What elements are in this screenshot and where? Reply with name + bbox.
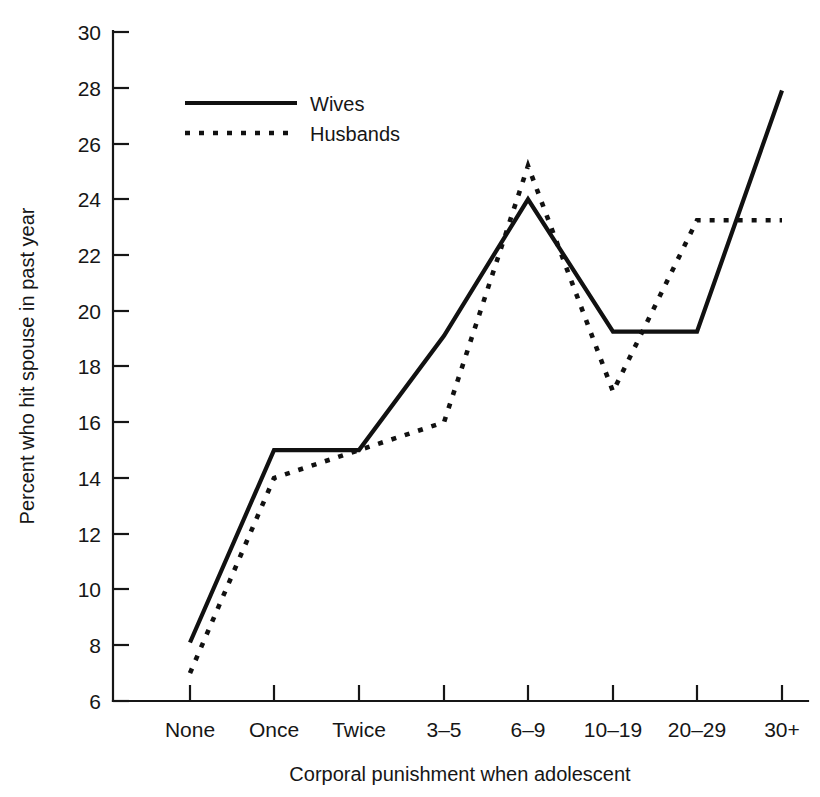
- y-tick-label-10: 10: [78, 578, 101, 601]
- series-line-husbands: [190, 166, 782, 673]
- y-tick-label-30: 30: [78, 21, 101, 44]
- legend-label-husbands: Husbands: [310, 123, 400, 145]
- x-axis-title: Corporal punishment when adolescent: [289, 763, 631, 785]
- y-tick-labels: 30 28 26 24 22 20 18 16 14 12 10 8 6: [78, 21, 102, 713]
- y-tick-label-6: 6: [89, 690, 101, 713]
- line-chart: 30 28 26 24 22 20 18 16 14 12 10 8 6: [0, 0, 820, 797]
- y-axis-title: Percent who hit spouse in past year: [16, 207, 38, 524]
- x-tick-label-6-9: 6–9: [510, 718, 545, 741]
- y-tick-label-16: 16: [78, 411, 101, 434]
- x-tick-label-30plus: 30+: [764, 718, 800, 741]
- x-tick-label-once: Once: [249, 718, 299, 741]
- y-tick-label-18: 18: [78, 355, 101, 378]
- chart-container: 30 28 26 24 22 20 18 16 14 12 10 8 6: [0, 0, 820, 797]
- y-tick-label-26: 26: [78, 133, 101, 156]
- y-tick-label-22: 22: [78, 244, 101, 267]
- y-tick-label-12: 12: [78, 523, 101, 546]
- x-tick-marks: [190, 685, 782, 701]
- series-line-wives: [190, 91, 782, 643]
- series-group: [190, 91, 782, 674]
- x-tick-label-none: None: [165, 718, 215, 741]
- y-tick-label-20: 20: [78, 300, 101, 323]
- x-tick-label-3-5: 3–5: [426, 718, 461, 741]
- x-tick-label-twice: Twice: [332, 718, 386, 741]
- y-tick-label-8: 8: [89, 634, 101, 657]
- y-tick-label-14: 14: [78, 467, 102, 490]
- x-tick-label-10-19: 10–19: [584, 718, 642, 741]
- y-tick-label-24: 24: [78, 188, 102, 211]
- x-tick-label-20-29: 20–29: [668, 718, 726, 741]
- y-tick-marks: [113, 32, 129, 701]
- x-tick-labels: None Once Twice 3–5 6–9 10–19 20–29 30+: [165, 718, 800, 741]
- legend-label-wives: Wives: [310, 93, 364, 115]
- y-tick-label-28: 28: [78, 77, 101, 100]
- legend: Wives Husbands: [185, 93, 400, 145]
